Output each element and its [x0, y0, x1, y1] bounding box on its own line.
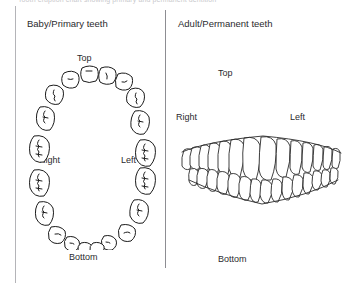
baby-tooth-lower-right-canine	[48, 227, 65, 244]
adult-orientation-label-bottom: Bottom	[218, 254, 247, 265]
panel-adult-title: Adult/Permanent teeth	[178, 18, 273, 29]
adult-orientation-label-right: Right	[176, 112, 197, 123]
baby-tooth-lower-right-first-molar	[35, 202, 53, 226]
panel-baby-title: Baby/Primary teeth	[27, 18, 108, 29]
adult-teeth-smile-diagram	[168, 128, 358, 218]
baby-teeth-arch-diagram	[23, 62, 159, 250]
baby-tooth-upper-right-canine	[45, 85, 63, 104]
baby-tooth-lower-right-lateral	[64, 237, 79, 251]
baby-tooth-upper-left-central	[99, 67, 116, 84]
baby-tooth-upper-left-canine	[127, 88, 145, 107]
baby-tooth-lower-right-second-molar	[30, 170, 50, 197]
panel-adult-permanent-teeth: Adult/Permanent teeth Top Right Left Bot…	[166, 0, 360, 289]
baby-tooth-lower-left-second-molar	[136, 168, 156, 195]
baby-tooth-upper-left-first-molar	[131, 111, 150, 135]
baby-tooth-lower-left-first-molar	[130, 200, 149, 224]
adult-orientation-label-top: Top	[218, 68, 233, 79]
baby-orientation-label-bottom: Bottom	[69, 252, 98, 263]
baby-tooth-upper-right-first-molar	[36, 107, 54, 131]
adult-orientation-label-left: Left	[290, 112, 305, 123]
baby-tooth-upper-right-lateral	[62, 71, 79, 88]
baby-tooth-upper-left-second-molar	[136, 140, 156, 167]
baby-tooth-upper-right-central	[81, 66, 99, 83]
baby-tooth-lower-left-canine	[118, 225, 135, 242]
baby-tooth-lower-left-central	[90, 242, 104, 250]
baby-tooth-upper-right-second-molar	[30, 136, 50, 163]
panel-baby-primary-teeth: Baby/Primary teeth Top Right Left Bottom	[15, 0, 165, 289]
baby-tooth-upper-left-lateral	[115, 73, 132, 90]
